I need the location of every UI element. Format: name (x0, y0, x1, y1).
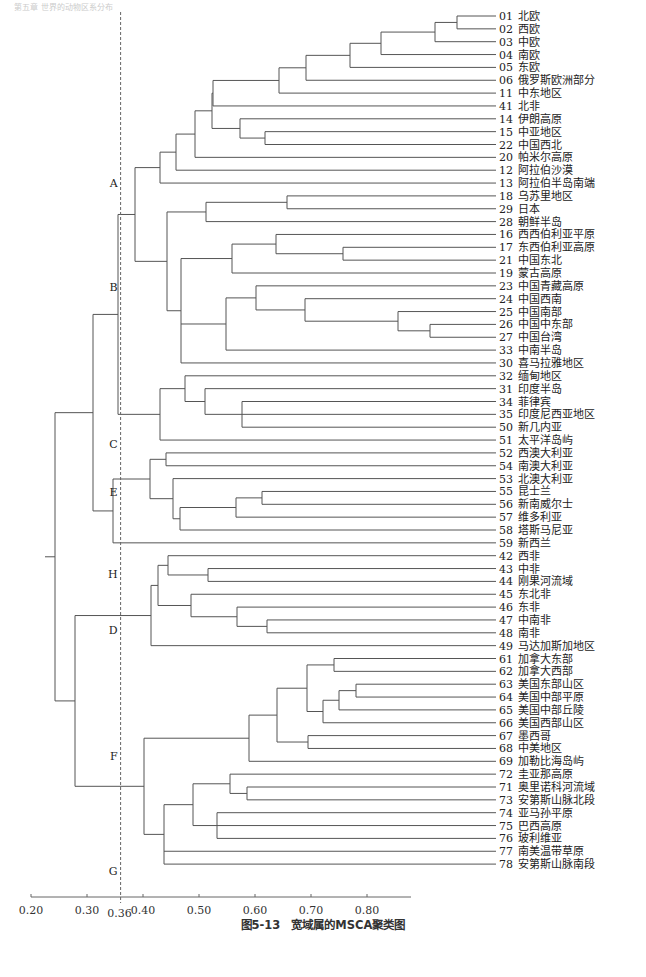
leaf-id: 13 (499, 177, 513, 190)
cluster-label-A: A (109, 177, 119, 190)
leaf-id: 61 (499, 653, 513, 666)
leaf-id: 33 (499, 344, 513, 357)
leaf-name: 奥里诺科河流域 (518, 780, 595, 794)
leaf-name: 阿拉伯沙漠 (518, 163, 573, 177)
leaf-name: 马达加斯加地区 (518, 640, 595, 653)
leaf-id: 63 (499, 678, 513, 691)
leaf-id: 44 (499, 575, 513, 588)
leaf-name: 菲律宾 (518, 395, 551, 409)
leaf-name: 维多利亚 (518, 510, 562, 524)
leaf-id: 27 (499, 331, 513, 344)
leaf-name: 西欧 (518, 23, 540, 36)
leaf-name: 亚马孙平原 (518, 807, 573, 820)
leaf-name: 中欧 (518, 36, 540, 49)
leaf-name: 印度半岛 (518, 382, 562, 396)
leaf-name: 阿拉伯半岛南端 (518, 176, 595, 190)
leaf-name: 中东地区 (518, 87, 562, 100)
leaf-id: 48 (499, 627, 513, 640)
leaf-id: 02 (499, 23, 513, 36)
leaf-id: 06 (499, 74, 513, 87)
leaf-id: 34 (499, 396, 513, 409)
cluster-label-C: C (109, 438, 117, 451)
leaf-id: 54 (499, 460, 513, 473)
leaf-name: 东欧 (518, 61, 540, 74)
leaf-id: 62 (499, 665, 513, 678)
leaf-name: 伊朗高原 (518, 112, 562, 126)
leaf-name: 塔斯马尼亚 (518, 524, 573, 537)
leaf-id: 32 (499, 370, 513, 383)
leaf-id: 11 (499, 87, 513, 100)
leaf-name: 帕米尔高原 (518, 150, 573, 164)
leaf-name: 中国中东部 (518, 317, 573, 331)
leaf-id: 28 (499, 216, 513, 229)
leaf-id: 21 (499, 254, 513, 267)
leaf-id: 25 (499, 306, 513, 319)
leaf-id: 31 (499, 383, 513, 396)
leaf-name: 喜马拉雅地区 (518, 356, 584, 370)
cluster-label-F: F (110, 750, 118, 763)
leaf-id: 35 (499, 408, 513, 421)
leaf-id: 49 (499, 640, 513, 653)
cluster-label-E: E (110, 486, 118, 499)
cluster-label-H: H (108, 568, 118, 581)
leaf-name: 东西伯利亚高原 (518, 240, 595, 254)
cluster-label-G: G (109, 865, 118, 878)
leaf-name: 中国青藏高原 (518, 279, 584, 293)
leaf-id: 73 (499, 794, 513, 807)
leaf-name: 西西伯利亚平原 (518, 227, 595, 241)
leaf-id: 30 (499, 357, 513, 370)
leaf-name: 朝鲜半岛 (518, 215, 562, 229)
leaf-name: 北欧 (518, 10, 540, 23)
leaf-name: 新几内亚 (518, 420, 562, 434)
leaf-name: 南欧 (518, 49, 540, 62)
leaf-name: 中亚地区 (518, 126, 562, 139)
leaf-id: 47 (499, 614, 513, 627)
leaf-name: 中国西南 (518, 293, 562, 306)
leaf-id: 42 (499, 550, 513, 563)
leaf-name: 加勒比海岛屿 (518, 754, 584, 768)
leaf-name: 美国中部丘陵 (518, 703, 584, 717)
leaf-id: 53 (499, 473, 513, 486)
leaf-id: 56 (499, 498, 513, 511)
leaf-name: 俄罗斯欧洲部分 (518, 73, 595, 87)
leaf-id: 66 (499, 717, 513, 730)
leaf-id: 03 (499, 36, 513, 49)
leaf-id: 20 (499, 151, 513, 164)
leaf-id: 59 (499, 537, 513, 550)
leaf-name: 中国西北 (518, 139, 562, 152)
leaf-name: 加拿大西部 (518, 664, 573, 678)
figure-caption: 图5-13 宽域属的MSCA聚类图 (0, 916, 646, 932)
leaf-name: 乌苏里地区 (518, 189, 573, 203)
leaf-name: 东北非 (518, 588, 551, 601)
leaf-id: 71 (499, 781, 513, 794)
leaf-id: 76 (499, 832, 513, 845)
leaf-id: 19 (499, 267, 513, 280)
leaf-name: 缅甸地区 (518, 369, 562, 383)
leaf-name: 玻利维亚 (518, 832, 562, 845)
leaf-name: 中国东北 (518, 254, 562, 267)
leaf-id: 12 (499, 164, 513, 177)
leaf-name: 墨西哥 (518, 730, 551, 743)
leaf-labels: 01北欧02西欧03中欧04南欧05东欧06俄罗斯欧洲部分11中东地区41北非1… (499, 10, 595, 871)
dendrogram-chart: 01北欧02西欧03中欧04南欧05东欧06俄罗斯欧洲部分11中东地区41北非1… (0, 0, 646, 977)
leaf-id: 23 (499, 280, 513, 293)
cluster-label-B: B (110, 281, 118, 294)
leaf-name: 中美地区 (518, 742, 562, 755)
leaf-name: 印度尼西亚地区 (518, 407, 595, 421)
leaf-name: 南澳大利亚 (518, 459, 573, 473)
leaf-id: 17 (499, 241, 513, 254)
leaf-id: 68 (499, 742, 513, 755)
leaf-name: 巴西高原 (518, 819, 562, 833)
leaf-name: 美国西部山区 (518, 716, 584, 730)
leaf-name: 西澳大利亚 (518, 446, 573, 460)
leaf-name: 南美温带草原 (518, 845, 584, 858)
leaf-id: 41 (499, 100, 513, 113)
leaf-name: 美国中部平原 (518, 690, 584, 704)
leaf-name: 东非 (518, 601, 540, 614)
leaf-name: 圭亚那高原 (518, 767, 573, 781)
leaf-id: 45 (499, 588, 513, 601)
leaf-name: 中非 (518, 563, 540, 576)
leaf-id: 72 (499, 768, 513, 781)
leaf-name: 中国台湾 (518, 330, 562, 344)
leaf-id: 24 (499, 293, 513, 306)
